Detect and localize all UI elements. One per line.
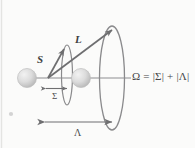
left-atom-sphere [18,69,37,88]
spin-vector-label: S [37,54,43,65]
vector-coupling-figure: S L Σ Λ Ω = |Σ| + |Λ| [0,0,195,148]
omega-equation: Ω = |Σ| + |Λ| [132,70,189,82]
sigma-precession-ellipse [62,45,73,105]
orbital-vector-label: L [75,34,82,45]
sigma-label: Σ [52,92,57,101]
right-atom-sphere [72,69,91,88]
stray-dot-artifact [9,112,13,116]
lambda-label: Λ [74,128,81,138]
